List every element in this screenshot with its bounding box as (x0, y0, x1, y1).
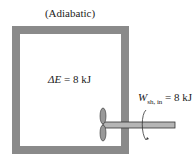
paddle-shaft-icon (0, 0, 194, 163)
